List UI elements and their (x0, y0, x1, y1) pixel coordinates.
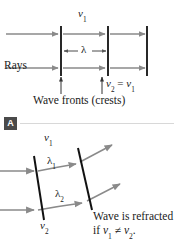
label-rays: Rays (4, 60, 27, 72)
tilted-wavefront-lines (34, 148, 92, 220)
physics-figure-refraction: v1 λ Rays v2 = v1 Wave fronts (crests) A (0, 0, 180, 243)
note-condition: if v1 ≠ v2. (93, 225, 136, 239)
caption-wave-fronts: Wave fronts (crests) (33, 95, 125, 107)
label-lambda-top: λ (81, 44, 86, 55)
panel-refraction: v1 λ1 λ2 v2 Wave is refracted if v1 ≠ v2… (0, 112, 180, 243)
label-v1-top: v1 (78, 8, 87, 22)
refraction-diagram (0, 112, 180, 243)
label-v2-bottom: v2 (40, 220, 49, 234)
label-v2-equals-v1: v2 = v1 (106, 78, 135, 92)
label-lambda1: λ1 (47, 155, 56, 169)
refracted-ray-lower (38, 184, 120, 210)
note-wave-is-refracted: Wave is refracted (93, 211, 173, 223)
wavefront-pointers (61, 77, 102, 94)
label-v1-bottom: v1 (44, 132, 53, 146)
panel-no-refraction: v1 λ Rays v2 = v1 Wave fronts (crests) (0, 0, 180, 112)
label-lambda2: λ2 (55, 188, 64, 202)
